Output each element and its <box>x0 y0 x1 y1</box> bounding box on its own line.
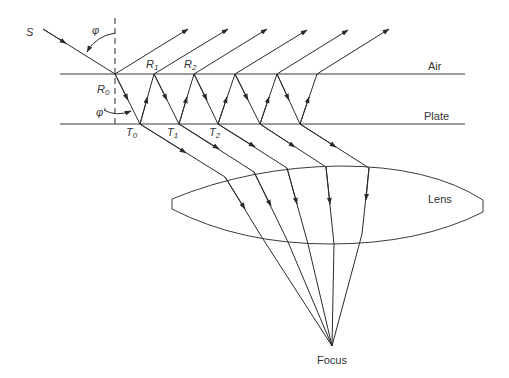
phi-prime-angle-arc <box>104 110 131 114</box>
air-label: Air <box>428 60 442 72</box>
lens-label: Lens <box>428 193 452 205</box>
focus-label: Focus <box>317 354 347 366</box>
phi-label: φ <box>92 24 99 36</box>
rays-to-focus <box>263 234 362 346</box>
plate-label: Plate <box>424 110 449 122</box>
label-r2: R2 <box>184 58 197 72</box>
label-r0: R0 <box>97 83 110 97</box>
label-t1: T1 <box>167 126 178 140</box>
phi-prime-label: φ' <box>96 106 106 118</box>
rays-in-lens <box>225 167 369 244</box>
interference-diagram: S φ φ' R0 R1 R2 T0 T1 T2 Air Plate Lens … <box>0 0 509 378</box>
label-t0: T0 <box>126 126 138 140</box>
internal-reflection-rays <box>115 74 317 124</box>
label-r1: R1 <box>146 58 158 72</box>
source-label: S <box>26 26 34 38</box>
label-t2: T2 <box>209 126 221 140</box>
